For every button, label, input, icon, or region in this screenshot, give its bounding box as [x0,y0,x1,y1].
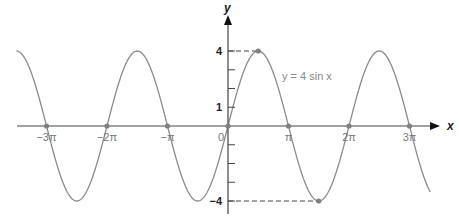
data-point [44,123,49,128]
x-axis-arrow-icon [430,122,440,130]
data-point [165,123,170,128]
x-tick-label: 0 [218,131,224,143]
y-tick-label: −4 [209,195,222,207]
data-point [286,123,291,128]
x-tick-label: 3π [403,131,417,143]
y-axis-arrow-icon [224,15,232,25]
data-point [346,123,351,128]
x-tick-label: −3π [36,131,57,143]
y-tick-label: 1 [216,101,222,113]
x-tick-label: −π [160,131,174,143]
x-tick-label: π [285,131,293,143]
data-point [256,48,261,53]
sine-chart: 41−4 −3π−2π−π0π2π3π x y y = 4 sin x [0,0,459,224]
data-point [316,198,321,203]
data-point [225,123,230,128]
y-tick-label: 4 [216,45,223,57]
axes [17,15,440,214]
x-tick-label: −2π [97,131,118,143]
data-point [104,123,109,128]
y-axis-label: y [223,1,232,15]
function-annotation: y = 4 sin x [282,70,332,82]
data-point [407,123,412,128]
x-tick-label: 2π [342,131,356,143]
x-axis-label: x [446,119,455,133]
